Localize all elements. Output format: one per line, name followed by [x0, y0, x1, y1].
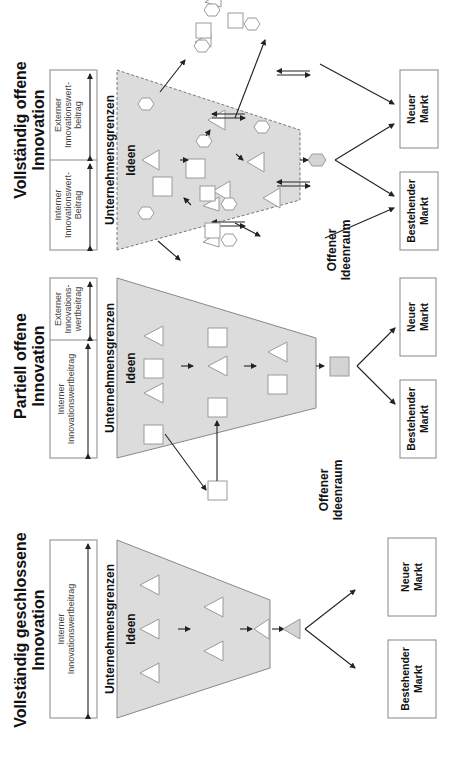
outflow-arrow-icon: [165, 434, 206, 490]
new-market-label: Neuer: [399, 562, 411, 592]
new-market-label-2: Markt: [412, 562, 424, 591]
ideas-label: Ideen: [124, 613, 138, 644]
market-arrow-icon: [335, 160, 394, 196]
internal-contribution-label-2: Innovationswertbeitrag: [66, 584, 76, 675]
external-contribution-label-3: wertbeitrag: [73, 287, 83, 333]
panel-open-title-line1: Vollständig offene: [12, 61, 29, 199]
idea-square-icon: [268, 375, 287, 394]
boundary-label: Unternehmensgrenzen: [103, 95, 117, 225]
market-arrow-icon: [325, 208, 394, 238]
internal-contribution-label-3: Beitrag: [73, 191, 83, 220]
idea-square-icon: [186, 159, 205, 178]
idea-square-icon: [144, 359, 163, 378]
panel-partial: Partiell offene Innovation Interner Inno…: [12, 278, 436, 520]
internal-contribution-label: Interner: [53, 189, 63, 220]
internal-contribution-label: Interner: [56, 383, 66, 414]
panel-closed-title-line2: Innovation: [30, 590, 47, 671]
product-hexagon-icon: [308, 154, 326, 166]
external-contribution-label-2: Innovationswert-: [63, 82, 73, 148]
internal-contribution-label-2: Innovationswertbeitrag: [66, 354, 76, 445]
existing-market-label-2: Markt: [412, 664, 424, 693]
product-triangle-icon: [283, 619, 300, 639]
panel-partial-title-line1: Partiell offene: [12, 313, 29, 419]
market-arrow-icon: [357, 366, 395, 404]
existing-market-label-2: Markt: [418, 404, 430, 433]
panel-partial-title-line2: Innovation: [30, 326, 47, 407]
existing-market-label-2: Markt: [418, 196, 430, 225]
open-space-label: Offener: [317, 468, 331, 511]
existing-market-label: Bestehender: [399, 647, 411, 711]
outflow-arrow-icon: [235, 40, 265, 118]
existing-market-label: Bestehender: [405, 387, 417, 451]
outflow-arrow-icon: [235, 223, 260, 236]
internal-contribution-label: Interner: [56, 613, 66, 644]
external-idea-square-icon: [208, 481, 227, 500]
idea-square-icon: [208, 328, 227, 347]
new-market-label: Neuer: [405, 94, 417, 124]
market-arrow-icon: [335, 124, 394, 160]
market-arrow-icon: [305, 590, 355, 629]
idea-square-icon: [144, 425, 163, 444]
outflow-arrow-icon: [160, 60, 185, 92]
boundary-label: Unternehmensgrenzen: [103, 303, 117, 433]
external-contribution-label-3: beitrag: [73, 101, 83, 129]
new-market-label: Neuer: [405, 302, 417, 332]
external-contribution-label: Externer: [53, 292, 63, 326]
open-space-label-2: Ideenraum: [331, 460, 345, 521]
idea-square-icon: [153, 177, 172, 196]
ideas-label: Ideen: [124, 144, 138, 175]
internal-contribution-label-2: Innovationswert-: [63, 172, 73, 238]
ideas-label: Ideen: [124, 352, 138, 383]
market-arrow-icon: [305, 629, 355, 668]
panel-open: Vollständig offene Innovation Interner I…: [12, 0, 438, 280]
panel-open-title-line2: Innovation: [30, 90, 47, 171]
boundary-label: Unternehmensgrenzen: [103, 564, 117, 694]
panel-closed: Vollständig geschlossene Innovation Inte…: [12, 532, 436, 727]
new-market-label-2: Markt: [418, 94, 430, 123]
existing-market-label: Bestehender: [405, 179, 417, 243]
product-square-icon: [330, 357, 349, 376]
idea-square-icon: [208, 398, 227, 417]
market-arrow-icon: [320, 64, 394, 104]
external-contribution-label-2: Innovations-: [63, 284, 73, 333]
external-contribution-label: Externer: [53, 98, 63, 132]
outflow-arrow-icon: [158, 241, 180, 260]
market-arrow-icon: [357, 328, 395, 366]
new-market-label-2: Markt: [418, 302, 430, 331]
open-innovation-diagram: Vollständig geschlossene Innovation Inte…: [0, 0, 450, 758]
panel-closed-title-line1: Vollständig geschlossene: [12, 532, 29, 727]
